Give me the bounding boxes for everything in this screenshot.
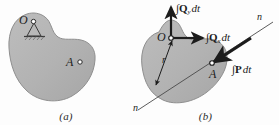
point-a-label-a: A	[66, 56, 73, 68]
point-a-label-b: A	[209, 68, 216, 80]
point-o-label-b: O	[157, 31, 166, 43]
point-o-marker-a	[31, 19, 35, 23]
impulse-p-label: ∫P dt	[232, 64, 251, 75]
point-a-marker-b	[210, 61, 215, 66]
impulse-p-differential: dt	[243, 63, 252, 75]
impulse-qy-subscript: y	[188, 8, 191, 16]
section-label-n-top: n	[257, 12, 262, 22]
figure-container: O A (a)	[0, 0, 279, 125]
impulse-qy-differential: dt	[192, 2, 201, 14]
point-o-label-a: O	[19, 14, 28, 26]
impulse-p-symbol: P	[235, 63, 242, 75]
panel-a: O A (a)	[0, 0, 132, 125]
impulse-qx-symbol: Q	[209, 31, 218, 43]
radius-label: r	[162, 55, 166, 65]
impulse-qx-differential: dt	[222, 31, 231, 43]
caption-a: (a)	[0, 110, 132, 122]
impulse-qx-subscript: x	[218, 37, 221, 45]
impulse-qx-label: ∫Qx dt	[206, 32, 230, 45]
point-a-marker-a	[78, 60, 82, 64]
point-o-marker-b	[169, 36, 174, 41]
impulse-qy-label: ∫Qy dt	[176, 3, 200, 16]
caption-b: (b)	[132, 110, 279, 122]
impulse-qy-symbol: Q	[179, 2, 188, 14]
panel-b: O A r n n ∫Qy dt ∫Qx dt ∫P dt (b)	[132, 0, 279, 125]
